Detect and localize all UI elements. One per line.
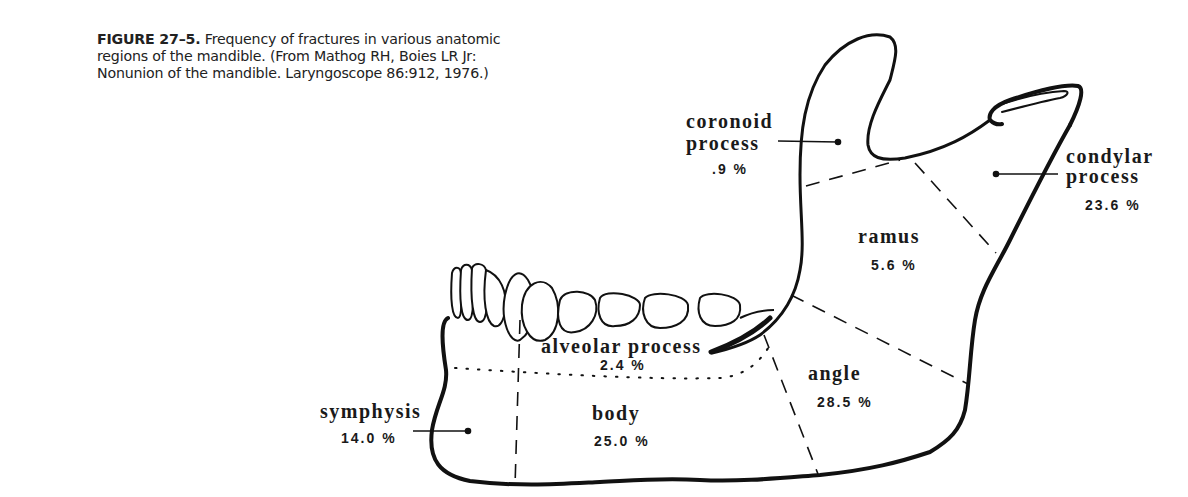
mandible-diagram: coronoid process .9 % condylar process 2… (0, 0, 1188, 497)
angle-value: 28.5 % (817, 394, 873, 410)
alveolar-value: 2.4 % (600, 357, 646, 373)
angle-label: angle (808, 362, 861, 385)
condylar-label-line2: process (1066, 165, 1139, 188)
symphysis-label: symphysis (320, 400, 421, 423)
ramus-label: ramus (858, 225, 920, 247)
body-label: body (592, 402, 640, 425)
ramus-value: 5.6 % (871, 257, 917, 273)
coronoid-label-line2: process (686, 132, 759, 155)
teeth (451, 264, 740, 341)
body-value: 25.0 % (594, 433, 650, 449)
mandible-outline (431, 35, 1081, 485)
symphysis-value: 14.0 % (341, 430, 397, 446)
condylar-value: 23.6 % (1085, 197, 1141, 213)
alveolar-label: alveolar process (541, 335, 701, 358)
coronoid-label-line1: coronoid (686, 110, 773, 132)
coronoid-value: .9 % (712, 161, 748, 177)
